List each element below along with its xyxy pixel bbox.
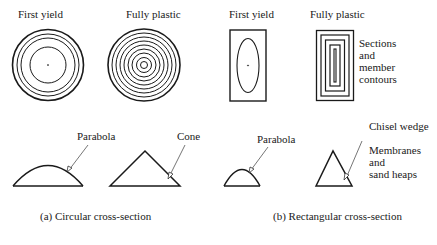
- rect-fully-plastic-contours: [317, 31, 354, 101]
- rect-parabola-shape: [224, 147, 268, 186]
- diagram-figure: [0, 0, 437, 245]
- chisel-wedge-shape: [316, 141, 362, 186]
- circular-parabola-shape: [13, 145, 88, 186]
- cone-shape: [110, 145, 185, 186]
- circle-fully-plastic-contours: [108, 29, 180, 101]
- rect-first-yield-contours: [230, 30, 266, 101]
- circle-first-yield-contours: [13, 30, 84, 101]
